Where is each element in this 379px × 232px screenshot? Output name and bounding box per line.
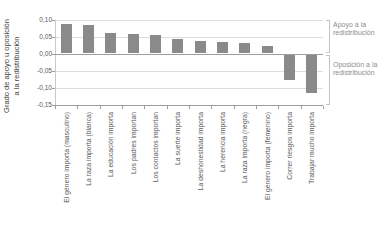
bracket-cap (326, 20, 329, 21)
y-axis-line (55, 20, 56, 105)
x-axis-tick (278, 106, 279, 109)
x-axis-category-label: La raza importa (blanca) (84, 112, 93, 230)
bar (306, 55, 317, 93)
bar (105, 33, 116, 53)
zero-axis-line (55, 54, 323, 55)
y-axis-tick-label: -0,15 (22, 100, 52, 109)
bar (284, 55, 295, 81)
x-axis-tick (144, 106, 145, 109)
x-axis-category-label: La herencia importa (218, 112, 227, 230)
bar (61, 24, 72, 54)
y-axis-tick-label: -0,10 (22, 83, 52, 92)
apoyo-bracket-line (329, 20, 330, 53)
gridline (55, 71, 323, 72)
x-axis-category-label: El género importa (masculino) (62, 112, 71, 230)
bracket-cap (326, 55, 329, 56)
x-axis-category-label: Correr riesgos importa (285, 112, 294, 230)
x-axis-tick (323, 106, 324, 109)
bar (239, 43, 250, 54)
x-axis-tick (234, 106, 235, 109)
gridline (55, 88, 323, 89)
x-axis-category-label: La educación importa (106, 112, 115, 230)
y-axis-tick-label: 0,10 (22, 15, 52, 24)
x-axis-tick (301, 106, 302, 109)
y-axis-tick-label: 0,05 (22, 32, 52, 41)
bracket-cap (326, 52, 329, 53)
bar (150, 35, 161, 53)
y-axis-tick-label: 0,00 (22, 49, 52, 58)
x-axis-category-label: La deshonestidad importa (196, 112, 205, 230)
bracket-cap (326, 104, 329, 105)
x-axis-category-label: La raza importa (negra) (240, 112, 249, 230)
oposicion-annotation: Oposición a la redistribución (333, 61, 379, 78)
x-axis-tick (77, 106, 78, 109)
bar (262, 46, 273, 53)
bar-chart: Grado de apoyo u oposición a la redistri… (0, 0, 379, 232)
x-axis-category-label: El género importa (femenino) (263, 112, 272, 230)
apoyo-annotation: Apoyo a la redistribución (333, 21, 379, 38)
x-axis-tick (256, 106, 257, 109)
bar (172, 39, 183, 54)
bar (217, 42, 228, 54)
x-axis-category-label: Trabajar mucho importa (307, 112, 316, 230)
x-axis-tick (167, 106, 168, 109)
x-axis-tick (100, 106, 101, 109)
plot-area: 0,100,050,00-0,05-0,10-0,15El género imp… (0, 0, 379, 232)
bar (83, 25, 94, 54)
x-axis-category-label: La suerte importa (173, 112, 182, 230)
x-axis-category-label: Los padres importan (129, 112, 138, 230)
gridline (55, 37, 323, 38)
oposicion-bracket-line (329, 55, 330, 105)
x-axis-tick (122, 106, 123, 109)
y-axis-tick-label: -0,05 (22, 66, 52, 75)
bar (195, 41, 206, 53)
gridline (55, 20, 323, 21)
x-axis-tick (55, 106, 56, 109)
x-axis-category-label: Los contactos importan (151, 112, 160, 230)
x-axis-tick (211, 106, 212, 109)
x-axis-tick (189, 106, 190, 109)
bar (128, 34, 139, 53)
